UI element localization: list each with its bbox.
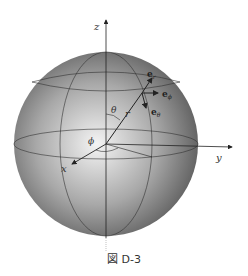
phi-label: ϕ [88, 136, 94, 146]
figure-caption: 図 D-3 [0, 250, 248, 266]
z-label: z [93, 21, 100, 32]
spherical-coordinates-diagram: z y x θ ϕ r er eϕ eθ [0, 0, 248, 276]
x-label: x [61, 163, 67, 174]
y-label: y [215, 152, 222, 163]
theta-label: θ [111, 105, 117, 115]
